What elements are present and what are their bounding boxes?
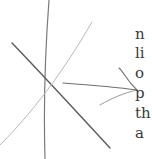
body-text-column: n li o p th a xyxy=(135,0,152,159)
text-line: n xyxy=(135,27,145,42)
hand-drawn-diagram xyxy=(0,0,152,159)
arrowhead-lower-stroke xyxy=(100,90,137,105)
dark-diagonal-line xyxy=(12,43,110,148)
arrow-shaft xyxy=(63,83,137,90)
text-line: th xyxy=(135,106,151,121)
text-line: p xyxy=(135,86,145,101)
text-line: a xyxy=(135,126,144,141)
text-line: o xyxy=(135,66,144,81)
document-page: n li o p th a xyxy=(0,0,152,159)
text-line: li xyxy=(135,46,145,61)
